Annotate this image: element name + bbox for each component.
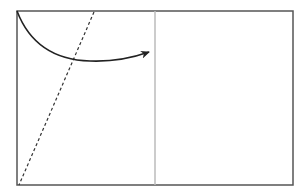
background bbox=[0, 0, 307, 196]
diagram-canvas bbox=[0, 0, 307, 196]
